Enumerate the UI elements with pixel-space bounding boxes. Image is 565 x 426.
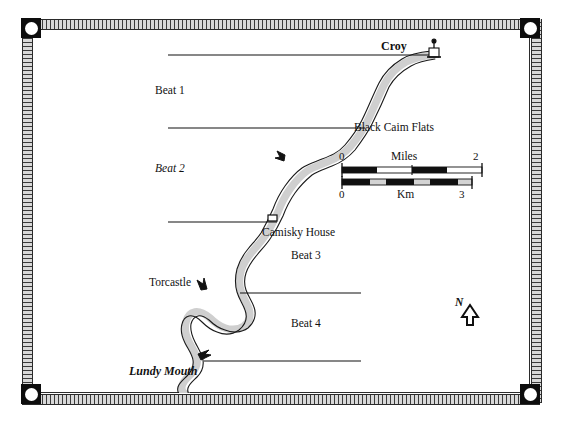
- compass-label-north: N: [455, 297, 463, 309]
- place-label-camisky-house: Camisky House: [262, 227, 335, 239]
- bridge-icon: [427, 39, 441, 57]
- scale-tick-km-min: 0: [339, 189, 345, 200]
- tributary-icon-mid: [275, 151, 285, 161]
- beat-label-4: Beat 4: [291, 318, 321, 330]
- place-label-croy: Croy: [381, 40, 407, 52]
- scale-tick-miles-min: 0: [339, 151, 345, 162]
- beat-label-2: Beat 2: [155, 163, 185, 175]
- map-frame-band-bottom: [22, 394, 540, 405]
- scale-tick-km-max: 3: [459, 189, 465, 200]
- place-label-black-caim-flats: Black Caim Flats: [354, 122, 434, 134]
- place-label-lundy-mouth: Lundy Mouth: [129, 365, 197, 377]
- river-lochy: [182, 55, 433, 393]
- tributary-icon-torcastle: [197, 278, 207, 290]
- scale-caption-miles: Miles: [391, 151, 417, 163]
- map-frame-band-right: [531, 19, 542, 403]
- building-square-icon: [268, 215, 277, 221]
- scale-tick-miles-max: 2: [473, 151, 479, 162]
- scale-caption-km: Km: [397, 189, 414, 201]
- north-arrow-icon: [462, 305, 478, 325]
- scale-bar-miles: [342, 163, 482, 177]
- beat-label-1: Beat 1: [155, 85, 185, 97]
- beat-label-3: Beat 3: [291, 250, 321, 262]
- place-label-torcastle: Torcastle: [149, 277, 191, 289]
- map-figure: Beat 1 Beat 2 Beat 3 Beat 4 Croy Black C…: [0, 0, 565, 426]
- map-canvas: [32, 29, 530, 393]
